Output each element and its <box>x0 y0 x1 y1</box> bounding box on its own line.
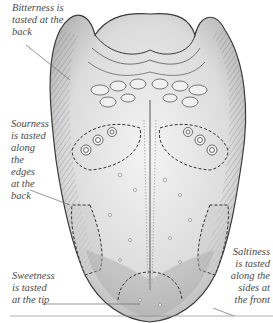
sweetness-label: Sweetness is tasted at the tip <box>12 270 55 306</box>
tongue-taste-diagram: Bitterness is tasted at the back Sournes… <box>0 0 273 323</box>
tongue-body <box>50 14 246 322</box>
bitterness-label: Bitterness is tasted at the back <box>12 2 64 38</box>
saltiness-label: Saltiness is tasted along the sides at t… <box>231 246 270 306</box>
saltiness-leader <box>213 308 234 316</box>
sourness-label: Sourness is tasted along the edges at th… <box>11 118 49 202</box>
